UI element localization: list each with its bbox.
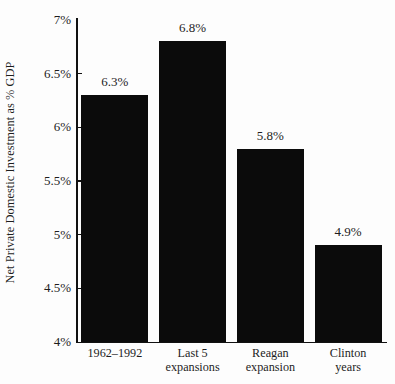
x-category-label: Last 5expansions	[154, 347, 232, 374]
bar	[159, 41, 226, 342]
bar-value-label: 6.3%	[63, 74, 166, 90]
x-category-label: Reaganexpansion	[232, 347, 310, 374]
y-tick-label: 4.5%	[1, 280, 76, 296]
y-axis-title-text: Net Private Domestic Investment as % GDP	[4, 61, 19, 283]
y-tick-label: 5%	[1, 227, 76, 243]
plot-area: 6.3%6.8%5.8%4.9%	[76, 20, 387, 342]
x-category-label-line: Clinton	[309, 347, 387, 361]
y-tick-label: 4%	[1, 334, 76, 350]
bar-value-label: 4.9%	[297, 224, 395, 240]
x-category-label-line: Reagan	[232, 347, 310, 361]
x-category-label-line: Last 5	[154, 347, 232, 361]
y-tick-label: 5.5%	[1, 173, 76, 189]
x-category-label-line: expansion	[232, 361, 310, 375]
bar	[81, 95, 148, 342]
x-category-label-line: 1962–1992	[76, 347, 154, 361]
bar	[315, 245, 382, 342]
y-tick-label: 6%	[1, 119, 76, 135]
bar	[237, 149, 304, 342]
bar-value-label: 6.8%	[141, 20, 244, 36]
x-category-label-line: expansions	[154, 361, 232, 375]
bar-chart: Net Private Domestic Investment as % GDP…	[0, 0, 395, 384]
x-category-label-line: years	[309, 361, 387, 375]
x-category-label: Clintonyears	[309, 347, 387, 374]
x-category-label: 1962–1992	[76, 347, 154, 361]
bar-value-label: 5.8%	[219, 128, 322, 144]
y-tick-label: 7%	[1, 12, 76, 28]
